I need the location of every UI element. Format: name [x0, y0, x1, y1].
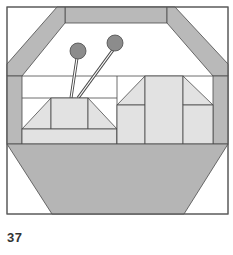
- left-side-bar: [7, 76, 22, 144]
- quilt-block-diagram: [0, 0, 233, 222]
- trapezoid-center-square: [51, 98, 88, 129]
- right-block-left-lower-square: [117, 105, 145, 144]
- right-block-center-column: [145, 76, 183, 144]
- top-bar: [65, 7, 167, 23]
- right-block-right-lower-square: [183, 105, 213, 144]
- right-side-bar: [213, 76, 228, 144]
- figure-number-label: 37: [7, 230, 22, 245]
- yarn-ball-right: [107, 35, 123, 51]
- yarn-ball-left: [70, 43, 86, 59]
- base-strip: [22, 129, 117, 144]
